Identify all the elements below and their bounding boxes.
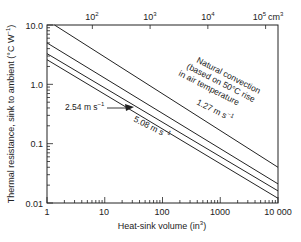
plot-frame: [47, 25, 278, 203]
chart-svg: 10.0 1.0 0.1 0.01 1 10 100 1000 10 000 1…: [0, 0, 301, 242]
top-axis-ticks: [92, 25, 265, 29]
x-axis-label: Heat-sink volume (in3): [118, 220, 206, 231]
x-tick-label: 10: [99, 207, 109, 217]
top-tick-label: 104: [201, 11, 215, 22]
y-axis-ticks: [47, 25, 53, 203]
chart-container: 10.0 1.0 0.1 0.01 1 10 100 1000 10 000 1…: [0, 0, 301, 242]
series-line: [47, 54, 278, 191]
x-tick-label: 1000: [210, 207, 230, 217]
top-tick-label: 103: [143, 11, 157, 22]
y-tick-label: 1.0: [30, 80, 43, 90]
x-tick-label: 1: [44, 207, 49, 217]
x-tick-label: 10 000: [264, 207, 292, 217]
top-tick-label: 102: [85, 11, 99, 22]
svg-text:5.08 m s−1: 5.08 m s−1: [132, 113, 173, 141]
natural-convection-annotation: Natural convection (based on 50°C rise i…: [177, 50, 262, 113]
y-axis-label: Thermal resistance, sink to ambient (°C …: [5, 25, 16, 204]
x-tick-label: 100: [154, 207, 169, 217]
top-tick-label: 105cm3: [253, 11, 284, 22]
label-254: 2.54 m s−1: [65, 101, 105, 112]
x-axis-ticks: [47, 197, 278, 203]
y-tick-label: 0.01: [25, 199, 43, 209]
y-tick-label: 0.1: [30, 139, 43, 149]
series-line: [47, 43, 278, 184]
y-tick-label: 10.0: [25, 21, 43, 31]
label-508: 5.08 m s−1: [132, 113, 173, 141]
